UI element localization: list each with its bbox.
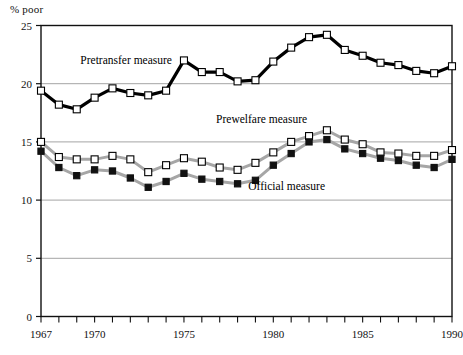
data-point-marker (127, 175, 133, 181)
x-tick-label: 1975 (173, 328, 196, 340)
chart-svg: 0510152025196719701975198019851990Pretra… (0, 0, 463, 355)
data-point-marker (377, 155, 383, 161)
data-point-marker (413, 67, 420, 74)
x-tick-label: 1967 (30, 328, 53, 340)
data-point-marker (73, 106, 80, 113)
x-tick-label: 1980 (262, 328, 285, 340)
data-point-marker (341, 136, 348, 143)
plot-area: 0510152025196719701975198019851990Pretra… (0, 0, 463, 355)
data-point-marker (395, 157, 401, 163)
data-point-marker (127, 156, 134, 163)
data-point-marker (198, 69, 205, 76)
data-point-marker (199, 176, 205, 182)
data-point-marker (55, 154, 62, 161)
data-point-marker (324, 136, 330, 142)
data-point-marker (74, 173, 80, 179)
data-point-marker (198, 158, 205, 165)
x-tick-label: 1990 (441, 328, 463, 340)
x-tick-label: 1985 (352, 328, 375, 340)
data-point-marker (180, 155, 187, 162)
data-point-marker (449, 147, 456, 154)
data-point-marker (163, 162, 170, 169)
data-point-marker (73, 156, 80, 163)
data-point-marker (216, 69, 223, 76)
data-point-marker (163, 87, 170, 94)
data-point-marker (431, 164, 437, 170)
data-point-marker (109, 168, 115, 174)
data-point-marker (217, 178, 223, 184)
data-point-marker (91, 156, 98, 163)
data-point-marker (431, 152, 438, 159)
data-point-marker (395, 62, 402, 69)
data-point-marker (38, 148, 44, 154)
y-tick-label: 15 (21, 136, 33, 148)
data-point-marker (360, 150, 366, 156)
data-point-marker (252, 159, 259, 166)
data-point-marker (38, 138, 45, 145)
series-line (41, 140, 452, 188)
data-point-marker (359, 52, 366, 59)
y-tick-label: 10 (21, 194, 33, 206)
data-point-marker (234, 78, 241, 85)
data-point-marker (145, 92, 152, 99)
data-point-marker (377, 59, 384, 66)
chart-figure: % poor 051015202519671970197519801985199… (0, 0, 463, 355)
data-point-marker (270, 58, 277, 65)
data-point-marker (288, 138, 295, 145)
y-tick-label: 20 (21, 78, 33, 90)
data-point-marker (234, 166, 241, 173)
data-point-marker (234, 181, 240, 187)
data-point-marker (109, 152, 116, 159)
y-tick-label: 0 (27, 311, 33, 323)
data-point-marker (38, 87, 45, 94)
data-point-marker (306, 139, 312, 145)
series-line (41, 35, 452, 110)
data-point-marker (306, 34, 313, 41)
data-point-marker (413, 162, 419, 168)
data-point-marker (359, 141, 366, 148)
data-point-marker (341, 46, 348, 53)
y-tick-label: 25 (21, 20, 33, 32)
data-point-marker (395, 150, 402, 157)
data-point-marker (431, 70, 438, 77)
data-point-marker (127, 90, 134, 97)
data-point-marker (145, 184, 151, 190)
data-point-marker (323, 31, 330, 38)
data-point-marker (252, 77, 259, 84)
data-point-marker (216, 164, 223, 171)
series-annotation-label: Prewelfare measure (216, 113, 307, 125)
data-point-marker (270, 149, 277, 156)
data-point-marker (449, 63, 456, 70)
data-point-marker (180, 57, 187, 64)
y-tick-label: 5 (27, 252, 33, 264)
data-point-marker (92, 167, 98, 173)
x-tick-label: 1970 (84, 328, 107, 340)
data-point-marker (56, 164, 62, 170)
data-point-marker (449, 156, 455, 162)
data-point-marker (342, 146, 348, 152)
data-point-marker (55, 101, 62, 108)
series-annotation-label: Pretransfer measure (80, 54, 172, 66)
series-annotation-label: Official measure (248, 180, 325, 192)
data-point-marker (163, 178, 169, 184)
data-point-marker (91, 94, 98, 101)
data-point-marker (270, 162, 276, 168)
data-point-marker (288, 150, 294, 156)
data-point-marker (145, 169, 152, 176)
series-line (41, 130, 452, 172)
data-point-marker (181, 170, 187, 176)
data-point-marker (109, 85, 116, 92)
data-point-marker (323, 127, 330, 134)
data-point-marker (288, 44, 295, 51)
data-point-marker (413, 152, 420, 159)
